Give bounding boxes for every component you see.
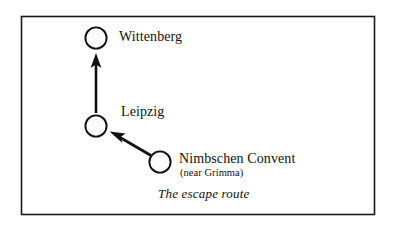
node-label-nimbschen-convent: Nimbschen Convent (179, 152, 295, 166)
node-wittenberg (85, 27, 106, 48)
figure-caption: The escape route (158, 187, 250, 200)
node-leipzig (85, 115, 106, 136)
node-label-wittenberg: Wittenberg (119, 30, 182, 44)
node-nimbschen-convent (149, 151, 170, 172)
escape-route-figure: Wittenberg Leipzig Nimbschen Convent (ne… (0, 0, 396, 234)
node-label-leipzig: Leipzig (121, 105, 164, 119)
node-sublabel-nimbschen-convent: (near Grimma) (180, 168, 243, 179)
figure-border (22, 17, 375, 215)
